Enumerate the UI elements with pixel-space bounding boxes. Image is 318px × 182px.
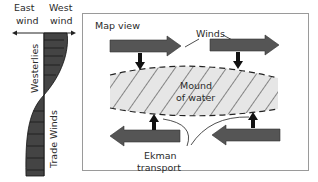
east-label-line1: East xyxy=(14,2,35,13)
westerlies-profile xyxy=(44,33,68,95)
ekman-label-line1: Ekman xyxy=(144,150,177,161)
west-label-line1: West xyxy=(49,2,73,13)
ekman-diagram: East wind West wind Westerlies Tr xyxy=(0,0,318,182)
ekman-label-line2: transport xyxy=(137,162,181,173)
map-view-panel: Map view Mound of water Winds Ekman tran… xyxy=(83,14,309,174)
wind-profile: East wind West wind Westerlies Tr xyxy=(12,2,76,176)
map-view-title: Map view xyxy=(95,20,140,31)
winds-label: Winds xyxy=(196,28,225,39)
westerlies-label: Westerlies xyxy=(29,44,40,93)
west-label-line2: wind xyxy=(50,15,72,26)
axis-arrow-left-icon xyxy=(12,31,17,36)
trade-winds-label: Trade Winds xyxy=(48,110,59,169)
axis-arrow-right-icon xyxy=(71,31,76,36)
trade-winds-profile xyxy=(26,95,44,176)
mound-label-line1: Mound xyxy=(180,80,212,91)
mound-label-line2: of water xyxy=(176,92,215,103)
east-label-line2: wind xyxy=(16,15,38,26)
